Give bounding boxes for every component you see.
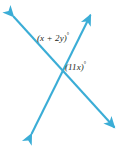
degree-symbol-icon: ° bbox=[67, 32, 70, 38]
angle-label-x-plus-2y-text: (x + 2y) bbox=[37, 33, 67, 43]
geometry-figure: (x + 2y)° (11x)° bbox=[0, 0, 123, 146]
degree-symbol-icon: ° bbox=[84, 61, 87, 67]
angle-label-11x: (11x)° bbox=[65, 63, 86, 72]
intersecting-lines-svg bbox=[0, 0, 123, 146]
angle-label-x-plus-2y: (x + 2y)° bbox=[37, 34, 69, 43]
angle-label-11x-text: (11x) bbox=[65, 62, 84, 72]
